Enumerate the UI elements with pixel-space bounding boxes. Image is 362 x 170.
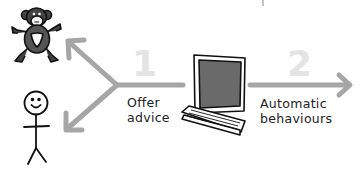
computer-icon (182, 55, 245, 135)
step-2-label-line2: behaviours (260, 111, 332, 126)
stick-figure-icon (24, 92, 49, 165)
step-1-label: Offer advice (127, 95, 170, 125)
step-2-label: Automatic behaviours (260, 96, 332, 126)
diagram-canvas (0, 0, 362, 170)
step-1-label-line2: advice (127, 110, 170, 125)
step-2-label-line1: Automatic (260, 96, 332, 111)
step-1-number: 1 (132, 46, 157, 82)
monkey-icon (12, 8, 61, 62)
step-2-number: 2 (287, 46, 312, 82)
step-1-label-line1: Offer (127, 95, 170, 110)
